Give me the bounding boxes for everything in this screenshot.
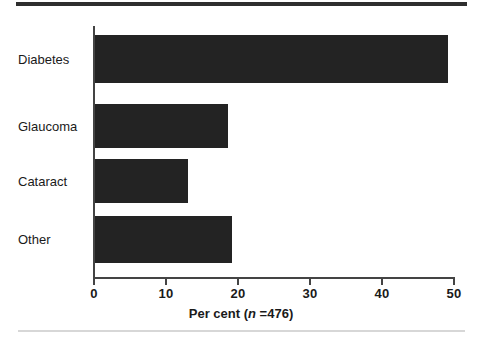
x-axis-title-n-symbol: n bbox=[248, 306, 256, 321]
x-tick-40 bbox=[381, 279, 383, 285]
x-tick-label-40: 40 bbox=[375, 286, 390, 301]
x-tick-label-0: 0 bbox=[90, 286, 97, 301]
x-tick-label-10: 10 bbox=[159, 286, 174, 301]
category-label-other: Other bbox=[18, 232, 51, 247]
bar-diabetes bbox=[95, 35, 448, 83]
figure-container: Diabetes Glaucoma Cataract Other 0 10 20… bbox=[0, 0, 482, 342]
bar-cataract bbox=[95, 159, 188, 203]
x-tick-50 bbox=[453, 279, 455, 285]
x-axis-title-suffix: =476) bbox=[256, 306, 293, 321]
x-tick-label-20: 20 bbox=[231, 286, 246, 301]
x-tick-label-30: 30 bbox=[303, 286, 318, 301]
bar-glaucoma bbox=[95, 104, 228, 148]
x-axis-line bbox=[93, 277, 455, 279]
x-tick-30 bbox=[309, 279, 311, 285]
chart-plot-area: Diabetes Glaucoma Cataract Other 0 10 20… bbox=[0, 0, 482, 342]
category-label-glaucoma: Glaucoma bbox=[18, 119, 77, 134]
x-axis-title-prefix: Per cent ( bbox=[189, 306, 248, 321]
x-tick-label-50: 50 bbox=[447, 286, 462, 301]
x-tick-20 bbox=[237, 279, 239, 285]
x-axis-title: Per cent (n =476) bbox=[0, 306, 482, 321]
category-label-cataract: Cataract bbox=[18, 174, 67, 189]
x-tick-10 bbox=[165, 279, 167, 285]
x-tick-0 bbox=[93, 279, 95, 285]
bottom-divider-rule bbox=[18, 330, 465, 332]
bar-other bbox=[95, 216, 232, 263]
category-label-diabetes: Diabetes bbox=[18, 52, 69, 67]
